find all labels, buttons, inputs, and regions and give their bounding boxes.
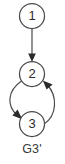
graph-canvas: 1 2 3 G3' [0,0,65,164]
node-3[interactable]: 3 [20,112,45,137]
edge-3-to-2-arrowhead [43,81,53,90]
node-2[interactable]: 2 [20,62,45,87]
node-1-label: 1 [28,8,35,23]
graph-figure: 1 2 3 G3' [0,0,65,164]
node-3-label: 3 [28,116,35,131]
edge-1-to-2-arrowhead [28,54,36,63]
edge-1-to-2 [28,29,36,62]
edge-2-to-3 [10,81,22,119]
edge-2-to-3-curve [10,81,22,116]
node-2-label: 2 [28,66,35,81]
node-1[interactable]: 1 [20,4,45,29]
figure-caption: G3' [22,142,42,156]
edge-3-to-2 [43,81,55,124]
edge-3-to-2-curve [44,85,55,125]
